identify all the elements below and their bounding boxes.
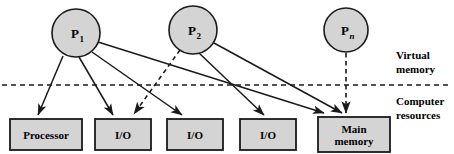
region-label-line: Computer bbox=[396, 95, 444, 107]
resource-box-io-1[interactable]: I/O bbox=[95, 119, 151, 150]
region-label-virtual-memory: Virtualmemory bbox=[396, 49, 436, 75]
region-label-line: resources bbox=[396, 109, 441, 121]
resource-box-label: I/O bbox=[187, 129, 203, 141]
edge-p2-main-memory bbox=[214, 43, 342, 113]
resource-box-label: memory bbox=[334, 135, 374, 147]
region-label-computer-resources: Computerresources bbox=[396, 95, 444, 121]
resource-box-label: I/O bbox=[260, 129, 276, 141]
region-label-line: memory bbox=[396, 63, 436, 75]
resource-box-io-2[interactable]: I/O bbox=[167, 119, 223, 150]
resource-box-label: Main bbox=[341, 123, 366, 135]
resource-box-main-memory[interactable]: Mainmemory bbox=[318, 117, 390, 152]
process-node-pn[interactable]: Pn bbox=[324, 8, 368, 52]
resource-box-label: I/O bbox=[115, 129, 131, 141]
resource-box-processor[interactable]: Processor bbox=[10, 119, 82, 150]
resource-box-label: Processor bbox=[23, 129, 69, 141]
process-node-p1[interactable]: P1 bbox=[52, 9, 100, 57]
region-label-line: Virtual bbox=[396, 49, 430, 61]
process-nodes-layer: P1P2Pn bbox=[52, 6, 368, 57]
edge-p1-io-1 bbox=[79, 57, 113, 115]
process-label-subscript: 2 bbox=[196, 31, 201, 41]
resource-box-io-3[interactable]: I/O bbox=[240, 119, 296, 150]
edge-p2-io-3 bbox=[199, 53, 264, 115]
process-label-subscript: 1 bbox=[79, 34, 84, 44]
process-label-subscript: n bbox=[349, 31, 354, 41]
edge-p1-io-2 bbox=[92, 52, 182, 115]
diagram-canvas: P1P2Pn ProcessorI/OI/OI/OMainmemory Virt… bbox=[0, 0, 454, 154]
edge-p2-io-1-dashed bbox=[134, 50, 180, 114]
edge-p1-main-memory bbox=[98, 42, 324, 113]
process-node-p2[interactable]: P2 bbox=[169, 6, 217, 54]
diagram-svg: P1P2Pn ProcessorI/OI/OI/OMainmemory Virt… bbox=[0, 0, 454, 154]
resource-boxes-layer: ProcessorI/OI/OI/OMainmemory bbox=[10, 117, 390, 152]
